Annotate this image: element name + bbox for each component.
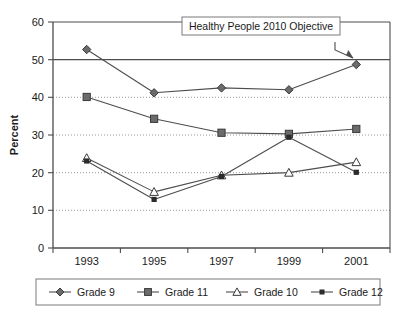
- y-axis-title: Percent: [8, 114, 20, 155]
- y-tick-label-30: 30: [32, 129, 44, 141]
- data-point-marker: [85, 159, 89, 163]
- legend-marker-icon: [145, 289, 152, 296]
- data-point-marker: [220, 175, 224, 179]
- x-axis-ticks: [53, 248, 390, 253]
- data-point-marker: [83, 93, 90, 100]
- data-point-marker: [354, 170, 358, 174]
- y-tick-label-0: 0: [38, 242, 44, 254]
- legend-marker-icon: [320, 290, 324, 294]
- data-point-marker: [287, 135, 291, 139]
- x-tick-label-2001: 2001: [344, 255, 368, 267]
- legend-item-label: Grade 11: [165, 286, 208, 298]
- x-tick-label-1999: 1999: [277, 255, 301, 267]
- line-chart: 0 10 20 30 40 50 60 Percent 1993 1995 19…: [0, 0, 403, 328]
- legend-item-label: Grade 10: [254, 286, 298, 298]
- x-tick-label-1993: 1993: [74, 255, 98, 267]
- y-tick-label-40: 40: [32, 91, 44, 103]
- legend-item-label: Grade 9: [77, 286, 115, 298]
- chart-figure: 0 10 20 30 40 50 60 Percent 1993 1995 19…: [0, 0, 403, 328]
- data-point-marker: [218, 129, 225, 136]
- annotation-label: Healthy People 2010 Objective: [189, 20, 333, 32]
- data-point-marker: [151, 115, 158, 122]
- y-tick-label-60: 60: [32, 16, 44, 28]
- y-tick-label-20: 20: [32, 167, 44, 179]
- data-point-marker: [152, 198, 156, 202]
- y-tick-label-10: 10: [32, 204, 44, 216]
- x-tick-label-1995: 1995: [142, 255, 166, 267]
- x-tick-label-1997: 1997: [209, 255, 233, 267]
- data-point-marker: [353, 125, 360, 132]
- legend-item-label: Grade 12: [339, 286, 383, 298]
- y-tick-label-50: 50: [32, 54, 44, 66]
- y-axis-ticks: [48, 22, 53, 248]
